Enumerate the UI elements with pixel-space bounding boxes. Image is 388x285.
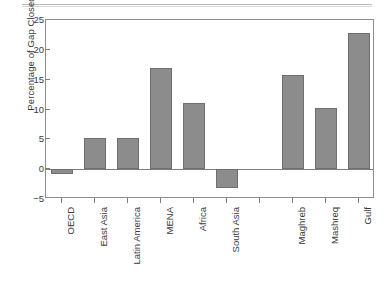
x-axis-tick — [358, 198, 359, 203]
y-axis-tick-label: 0 — [39, 163, 44, 174]
y-axis-tick-label: 15 — [33, 73, 44, 84]
bar — [150, 68, 172, 169]
y-axis-tick — [45, 138, 50, 139]
x-axis-tick — [259, 198, 260, 203]
x-axis-tick-label: OECD — [65, 207, 76, 234]
bar — [84, 138, 106, 169]
bar — [216, 169, 238, 188]
plot-area — [45, 19, 374, 198]
x-axis-tick — [160, 198, 161, 203]
x-axis-tick-label: East Asia — [98, 207, 109, 247]
x-axis-tick-label: Mashreq — [329, 207, 340, 244]
y-axis-tick — [45, 79, 50, 80]
x-axis-tick — [94, 198, 95, 203]
y-axis-tick — [45, 49, 50, 50]
bar-chart-figure: Percentage of Gap Closed −50510152025 OE… — [0, 0, 388, 285]
y-axis-tick — [45, 109, 50, 110]
y-axis-tick-label: 20 — [33, 43, 44, 54]
bar — [348, 33, 370, 169]
x-axis-tick-label: MENA — [164, 207, 175, 234]
bar — [51, 169, 73, 174]
bar — [315, 108, 337, 169]
x-axis-tick — [292, 198, 293, 203]
bar — [282, 75, 304, 169]
y-axis-tick-label: 25 — [33, 14, 44, 25]
x-axis-tick-label: Maghreb — [296, 207, 307, 245]
x-axis-tick — [325, 198, 326, 203]
x-axis-tick-label: Latin America — [131, 207, 142, 265]
x-axis-tick — [127, 198, 128, 203]
y-axis-tick-label: 5 — [39, 133, 44, 144]
x-axis-tick-label: South Asia — [230, 207, 241, 252]
x-axis-tick-label: Africa — [197, 207, 208, 231]
x-axis-tick-label: Gulf — [362, 207, 373, 224]
x-axis-tick — [193, 198, 194, 203]
y-axis-tick-label: −5 — [33, 193, 44, 204]
y-axis-tick — [45, 168, 50, 169]
x-axis-tick — [61, 198, 62, 203]
zero-baseline — [46, 169, 373, 170]
bar — [183, 103, 205, 169]
x-axis-tick — [226, 198, 227, 203]
y-axis-tick-label: 10 — [33, 103, 44, 114]
bar — [117, 138, 139, 169]
